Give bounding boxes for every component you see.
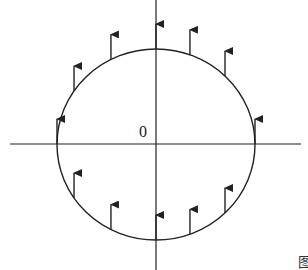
origin-label: 0 bbox=[139, 123, 147, 140]
figure-label-fragment: 图 bbox=[298, 254, 308, 270]
circle-vector-diagram: 0 bbox=[0, 0, 308, 270]
